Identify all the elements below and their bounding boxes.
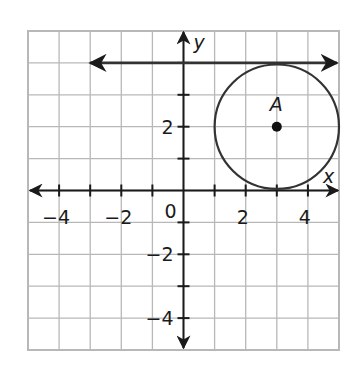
y-tick-label: 2 <box>161 116 173 138</box>
x-tick-label: −2 <box>104 206 132 228</box>
y-axis-label: y <box>193 31 206 53</box>
axes <box>30 32 338 348</box>
x-tick-label: −4 <box>42 206 70 228</box>
y-tick-label: −2 <box>145 243 173 265</box>
point-a <box>272 122 282 132</box>
x-axis-label: x <box>322 165 335 187</box>
coordinate-plane: −4−20242−2−4 A x y <box>0 0 357 370</box>
x-tick-label: 0 <box>164 200 176 222</box>
x-tick-label: 4 <box>299 206 311 228</box>
point-a-label: A <box>268 93 283 115</box>
y-tick-label: −4 <box>145 307 173 329</box>
x-tick-label: 2 <box>237 206 249 228</box>
